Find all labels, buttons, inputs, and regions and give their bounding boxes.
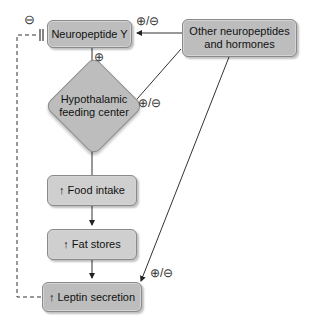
fat-stores-node: ↑ Fat stores: [47, 229, 137, 260]
leptin-secretion-node: ↑ Leptin secretion: [42, 282, 142, 312]
modulate-sign-leptin: ⊕/⊖: [150, 266, 173, 280]
food-intake-label: Food intake: [68, 184, 125, 197]
other-neuropeptides-node: Other neuropeptides and hormones: [182, 19, 297, 57]
food-intake-node: ↑ Food intake: [47, 175, 137, 206]
fat-stores-label: Fat stores: [72, 238, 121, 251]
hypothalamic-feeding-center-label: Hypothalamic feeding center: [44, 89, 144, 123]
stimulate-sign: ⊕: [94, 50, 104, 64]
neuropeptide-y-node: Neuropeptide Y: [47, 20, 132, 48]
neuropeptide-y-label: Neuropeptide Y: [51, 28, 127, 41]
up-arrow-icon: ↑: [63, 238, 69, 251]
modulate-sign-hypothalamic: ⊕/⊖: [138, 96, 161, 110]
other-neuropeptides-label: Other neuropeptides and hormones: [189, 25, 289, 51]
up-arrow-icon: ↑: [49, 291, 55, 304]
leptin-secretion-label: Leptin secretion: [57, 291, 135, 304]
inhibit-sign: ⊖: [24, 12, 35, 27]
modulate-sign-npy: ⊕/⊖: [136, 14, 159, 28]
up-arrow-icon: ↑: [59, 184, 65, 197]
